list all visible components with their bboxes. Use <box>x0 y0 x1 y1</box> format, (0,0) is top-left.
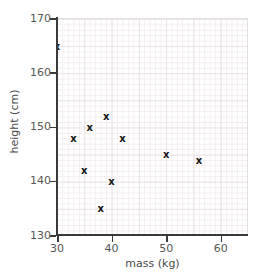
y-tick-label: 170 <box>11 13 51 24</box>
data-point: x <box>69 133 78 144</box>
y-tick-label: 130 <box>11 230 51 241</box>
y-axis-title: height (cm) <box>8 62 21 182</box>
x-tick-label: 50 <box>146 243 186 254</box>
data-point: x <box>102 111 111 122</box>
x-tick-label: 40 <box>92 243 132 254</box>
data-point: x <box>96 203 105 214</box>
x-axis-title: mass (kg) <box>57 257 248 270</box>
x-axis-line <box>56 234 248 236</box>
scatter-chart: xxxxxxxxxx 130140150160170 30405060 mass… <box>0 0 256 273</box>
data-point: x <box>118 133 127 144</box>
data-point: x <box>80 165 89 176</box>
plot-area: xxxxxxxxxx <box>57 18 248 235</box>
data-point: x <box>194 155 203 166</box>
x-tick-label: 60 <box>201 243 241 254</box>
data-point: x <box>85 122 94 133</box>
x-tick-label: 30 <box>37 243 77 254</box>
data-point: x <box>162 149 171 160</box>
data-point: x <box>107 176 116 187</box>
y-axis-line <box>56 17 58 236</box>
